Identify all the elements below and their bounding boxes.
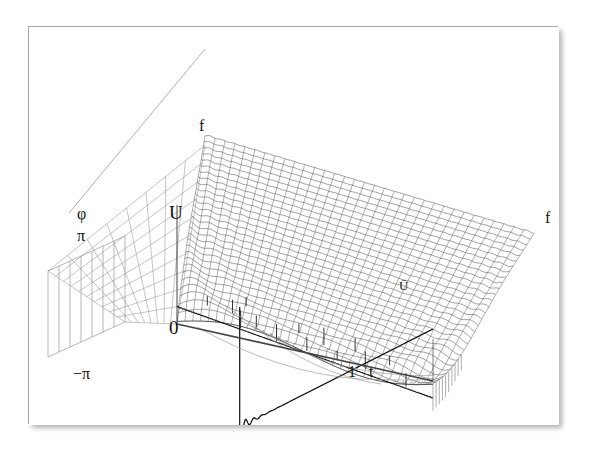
figure-screen: φ π −π U 0 f f 1 t Ū	[0, 0, 589, 450]
phase-upper-bound-label: π	[77, 227, 85, 244]
time-tick-label: 1	[348, 363, 356, 380]
frequency-axis-right-label: f	[545, 209, 551, 226]
origin-label: 0	[169, 317, 179, 338]
mean-value-label: Ū	[399, 278, 409, 293]
plot-background	[29, 27, 559, 425]
phase-lower-bound-label: −π	[73, 365, 90, 382]
phase-axis-label: φ	[77, 205, 86, 223]
surface-plot-svg: φ π −π U 0 f f 1 t Ū	[29, 27, 559, 425]
frequency-axis-apex-label: f	[199, 117, 205, 134]
amplitude-axis-label: U	[169, 202, 183, 223]
figure-plate: φ π −π U 0 f f 1 t Ū	[28, 26, 558, 424]
time-axis-label: t	[369, 363, 374, 380]
